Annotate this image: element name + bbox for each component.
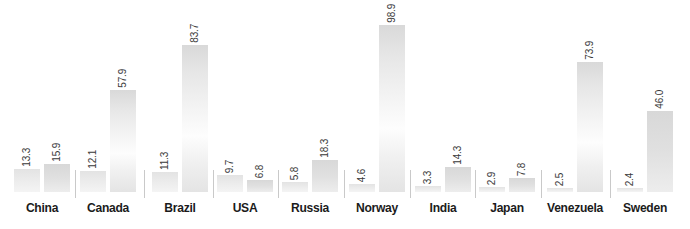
bar-group-canada: 12.157.9 (78, 4, 138, 192)
bar-item: 13.3 (14, 4, 40, 192)
bar-value-label: 7.8 (517, 163, 527, 176)
bar-item: 73.9 (577, 4, 603, 192)
bar-group-venezuela: 2.573.9 (545, 4, 605, 192)
bar-value-label: 12.1 (88, 150, 98, 169)
group-divider (610, 170, 611, 198)
bar-value-label: 73.9 (585, 41, 595, 60)
bar-usa-series-2 (247, 180, 273, 192)
group-divider (75, 170, 76, 198)
bar-value-label: 11.3 (160, 152, 170, 170)
bar-group-sweden: 2.446.0 (615, 4, 675, 192)
bar-item: 83.7 (182, 4, 208, 192)
category-label-venezuela: Venezuela (542, 200, 609, 215)
bar-item: 57.9 (110, 4, 136, 192)
category-label-china: China (9, 200, 76, 215)
bar-value-label: 57.9 (118, 69, 128, 88)
bar-russia-series-1 (282, 182, 308, 192)
bar-japan-series-1 (479, 187, 505, 192)
bar-item: 7.8 (509, 4, 535, 192)
bar-chart: 13.315.912.157.911.383.79.76.85.818.34.6… (0, 0, 690, 229)
bar-item: 6.8 (247, 4, 273, 192)
category-label-canada: Canada (75, 200, 142, 215)
bar-item: 14.3 (445, 4, 471, 192)
bar-value-label: 46.0 (655, 90, 665, 109)
bar-brazil-series-1 (152, 172, 178, 192)
bar-canada-series-1 (80, 171, 106, 192)
bar-value-label: 3.3 (423, 171, 433, 184)
bar-norway-series-2 (379, 25, 405, 192)
bar-russia-series-2 (312, 160, 338, 192)
bar-item: 4.6 (349, 4, 375, 192)
bar-value-label: 98.9 (387, 4, 397, 23)
bar-venezuela-series-1 (547, 188, 573, 192)
bar-value-label: 15.9 (52, 143, 62, 162)
bar-group-russia: 5.818.3 (280, 4, 340, 192)
bar-value-label: 83.7 (190, 24, 200, 43)
group-divider (144, 170, 145, 198)
bar-group-brazil: 11.383.7 (150, 4, 210, 192)
bar-value-label: 5.8 (290, 167, 300, 180)
bar-group-china: 13.315.9 (12, 4, 72, 192)
group-divider (344, 170, 345, 198)
bar-canada-series-2 (110, 90, 136, 192)
bar-item: 3.3 (415, 4, 441, 192)
bar-item: 11.3 (152, 4, 178, 192)
group-divider (278, 170, 279, 198)
bar-china-series-2 (44, 164, 70, 192)
group-divider (410, 170, 411, 198)
bar-item: 12.1 (80, 4, 106, 192)
bar-norway-series-1 (349, 184, 375, 192)
plot-area: 13.315.912.157.911.383.79.76.85.818.34.6… (0, 0, 690, 229)
bar-item: 2.9 (479, 4, 505, 192)
bar-sweden-series-1 (617, 188, 643, 192)
bar-item: 2.5 (547, 4, 573, 192)
bar-value-label: 9.7 (225, 160, 235, 173)
bar-item: 5.8 (282, 4, 308, 192)
bar-item: 15.9 (44, 4, 70, 192)
category-label-japan: Japan (474, 200, 541, 215)
category-label-brazil: Brazil (147, 200, 214, 215)
bar-group-usa: 9.76.8 (215, 4, 275, 192)
category-label-russia: Russia (277, 200, 344, 215)
category-label-india: India (410, 200, 477, 215)
bar-group-norway: 4.698.9 (347, 4, 407, 192)
bar-group-india: 3.314.3 (413, 4, 473, 192)
bar-venezuela-series-2 (577, 62, 603, 192)
category-label-usa: USA (212, 200, 279, 215)
bar-value-label: 14.3 (453, 146, 463, 165)
bar-value-label: 6.8 (255, 165, 265, 178)
bar-brazil-series-2 (182, 45, 208, 192)
bar-group-japan: 2.97.8 (477, 4, 537, 192)
bar-value-label: 18.3 (320, 139, 330, 158)
bar-item: 98.9 (379, 4, 405, 192)
bar-value-label: 13.3 (22, 148, 32, 167)
bar-item: 18.3 (312, 4, 338, 192)
bar-value-label: 2.4 (625, 173, 635, 186)
bar-value-label: 2.9 (487, 172, 497, 185)
bar-item: 9.7 (217, 4, 243, 192)
category-label-sweden: Sweden (612, 200, 679, 215)
bar-india-series-1 (415, 186, 441, 192)
bar-value-label: 2.5 (555, 173, 565, 186)
bar-usa-series-1 (217, 175, 243, 192)
group-divider (213, 170, 214, 198)
bar-item: 46.0 (647, 4, 673, 192)
bar-india-series-2 (445, 167, 471, 192)
bar-china-series-1 (14, 169, 40, 192)
bar-value-label: 4.6 (357, 169, 367, 182)
group-divider (475, 170, 476, 198)
bar-item: 2.4 (617, 4, 643, 192)
bar-japan-series-2 (509, 178, 535, 192)
bar-sweden-series-2 (647, 111, 673, 192)
group-divider (541, 170, 542, 198)
category-label-norway: Norway (344, 200, 411, 215)
